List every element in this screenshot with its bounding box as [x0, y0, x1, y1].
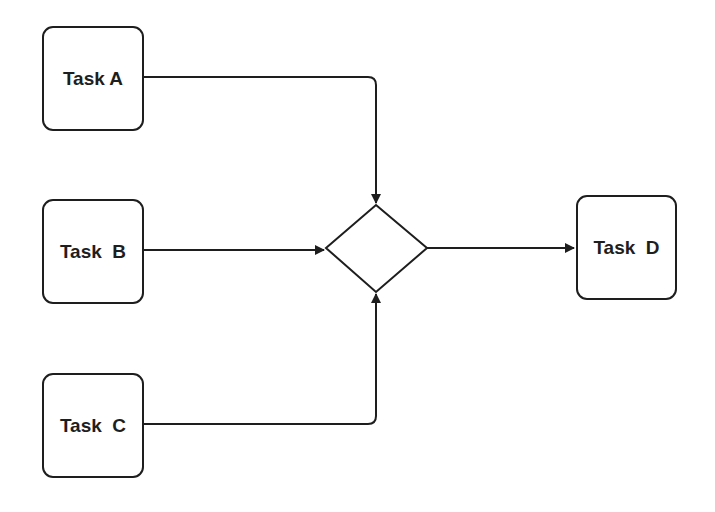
node-label: Task A	[63, 68, 123, 90]
edge-a-to-decision	[143, 77, 376, 203]
node-task-d: Task D	[576, 195, 677, 300]
node-task-b: Task B	[42, 199, 144, 304]
node-label: Task C	[60, 415, 126, 437]
node-label: Task D	[593, 237, 659, 259]
node-label: Task B	[60, 241, 126, 263]
edge-c-to-decision	[143, 294, 376, 424]
node-task-c: Task C	[42, 373, 144, 478]
node-task-a: Task A	[42, 26, 144, 131]
decision-diamond	[326, 205, 427, 292]
